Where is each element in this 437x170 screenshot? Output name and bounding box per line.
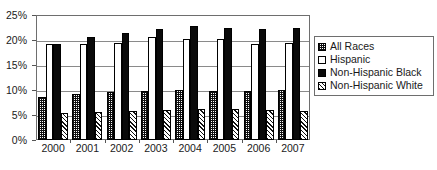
legend-item-all-races: All Races xyxy=(318,40,429,53)
bar-non-hispanic-white-2005 xyxy=(232,109,239,140)
y-tick-label: 15% xyxy=(6,60,27,71)
legend-item-hispanic: Hispanic xyxy=(318,53,429,66)
legend-label: Non-Hispanic Black xyxy=(330,67,422,78)
bar-non-hispanic-white-2003 xyxy=(163,110,170,141)
bar-hispanic-2002 xyxy=(114,43,121,141)
bar-non-hispanic-white-2007 xyxy=(300,111,307,141)
bar-non-hispanic-white-2004 xyxy=(198,109,205,141)
white-square-swatch-icon xyxy=(318,56,326,64)
x-tick-label-2007: 2007 xyxy=(281,143,304,154)
bar-hispanic-2000 xyxy=(46,44,53,140)
x-tick-label-2000: 2000 xyxy=(41,143,64,154)
checkerboard-swatch-icon xyxy=(318,43,326,51)
x-tick-label-2005: 2005 xyxy=(213,143,236,154)
x-tick-mark xyxy=(207,140,208,143)
bar-all-races-2000 xyxy=(38,97,45,140)
bar-all-races-2002 xyxy=(107,92,114,140)
bar-all-races-2001 xyxy=(72,94,79,140)
bar-all-races-2004 xyxy=(175,90,182,140)
x-tick-mark xyxy=(173,140,174,143)
legend-label: Non-Hispanic White xyxy=(330,80,423,91)
hatched-square-swatch-icon xyxy=(318,82,326,90)
bar-non-hispanic-white-2001 xyxy=(95,112,102,141)
bar-hispanic-2003 xyxy=(148,37,155,140)
bar-all-races-2007 xyxy=(278,90,285,140)
y-tick-label: 0% xyxy=(12,135,27,146)
x-tick-label-2003: 2003 xyxy=(144,143,167,154)
y-axis: 0%5%10%15%20%25% xyxy=(0,0,34,170)
chart-container: 0%5%10%15%20%25% 20002001200220032004200… xyxy=(0,0,437,170)
x-tick-mark xyxy=(70,140,71,143)
bar-non-hispanic-white-2002 xyxy=(129,111,136,141)
x-tick-mark xyxy=(276,140,277,143)
bar-non-hispanic-black-2007 xyxy=(293,28,300,140)
bar-hispanic-2005 xyxy=(217,39,224,140)
bar-hispanic-2006 xyxy=(251,44,258,140)
bar-non-hispanic-black-2005 xyxy=(224,28,231,141)
bar-non-hispanic-black-2004 xyxy=(190,26,197,140)
bars-layer xyxy=(36,15,310,140)
bar-non-hispanic-black-2000 xyxy=(53,44,60,141)
x-tick-mark xyxy=(105,140,106,143)
y-tick-label: 25% xyxy=(6,10,27,21)
chart-legend: All RacesHispanicNon-Hispanic BlackNon-H… xyxy=(314,36,434,96)
x-tick-label-2004: 2004 xyxy=(178,143,201,154)
x-tick-label-2006: 2006 xyxy=(247,143,270,154)
bar-non-hispanic-black-2001 xyxy=(87,37,94,140)
bar-all-races-2003 xyxy=(141,91,148,141)
y-tick-label: 10% xyxy=(6,85,27,96)
bar-non-hispanic-black-2003 xyxy=(156,29,163,140)
x-tick-label-2002: 2002 xyxy=(110,143,133,154)
bar-non-hispanic-white-2000 xyxy=(61,113,68,140)
bar-hispanic-2007 xyxy=(285,43,292,141)
bar-non-hispanic-black-2002 xyxy=(122,33,129,141)
bar-all-races-2005 xyxy=(209,91,216,141)
bar-all-races-2006 xyxy=(244,91,251,140)
legend-label: Hispanic xyxy=(330,54,370,65)
y-tick-label: 5% xyxy=(12,110,27,121)
black-square-swatch-icon xyxy=(318,69,326,77)
legend-item-non-hispanic-white: Non-Hispanic White xyxy=(318,79,429,92)
x-axis: 20002001200220032004200520062007 xyxy=(36,143,310,163)
bar-non-hispanic-black-2006 xyxy=(259,29,266,141)
x-tick-mark xyxy=(242,140,243,143)
legend-label: All Races xyxy=(330,41,374,52)
y-tick-mark xyxy=(32,140,36,141)
bar-non-hispanic-white-2006 xyxy=(266,110,273,141)
bar-hispanic-2004 xyxy=(183,39,190,141)
legend-item-non-hispanic-black: Non-Hispanic Black xyxy=(318,66,429,79)
bar-hispanic-2001 xyxy=(80,44,87,141)
x-tick-label-2001: 2001 xyxy=(76,143,99,154)
y-tick-label: 20% xyxy=(6,35,27,46)
x-tick-mark xyxy=(139,140,140,143)
